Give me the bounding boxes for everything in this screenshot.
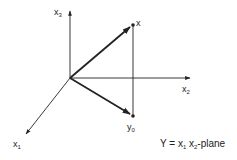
point-y0 bbox=[131, 114, 135, 118]
x1-axis bbox=[26, 78, 70, 134]
vector-x bbox=[70, 27, 130, 78]
diagram-canvas: x3 x2 x1 x y0 Y = x1 x2-plane bbox=[0, 0, 237, 160]
x2-axis-label: x2 bbox=[182, 85, 190, 95]
diagram-svg bbox=[0, 0, 237, 160]
point-y0-label: y0 bbox=[127, 123, 135, 133]
x1-axis-label: x1 bbox=[13, 140, 21, 150]
point-x bbox=[131, 23, 135, 27]
vector-y0 bbox=[70, 78, 130, 114]
plane-caption: Y = x1 x2-plane bbox=[160, 139, 225, 150]
x3-axis-label: x3 bbox=[54, 8, 62, 18]
point-x-label: x bbox=[136, 19, 141, 28]
